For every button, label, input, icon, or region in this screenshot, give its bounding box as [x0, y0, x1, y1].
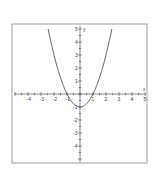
graph: -4-3-2-11234554321-1-2-3-4 x y [0, 0, 160, 172]
y-tick-label: 4 [75, 39, 78, 45]
y-tick-label: -1 [73, 104, 78, 110]
y-tick-label: 1 [75, 78, 78, 84]
x-tick-label: -2 [53, 96, 58, 102]
y-tick-label: 2 [75, 65, 78, 71]
x-tick-label: -4 [27, 96, 32, 102]
plot-frame [12, 24, 147, 163]
y-tick-label: 3 [75, 52, 78, 58]
x-tick-label: 2 [105, 96, 108, 102]
x-tick-label: 4 [131, 96, 134, 102]
y-tick-label: -2 [73, 117, 78, 123]
x-tick-label: 3 [118, 96, 121, 102]
x-tick-label: -3 [40, 96, 45, 102]
y-tick-label: -4 [73, 143, 78, 149]
y-tick-label: -3 [73, 130, 78, 136]
x-tick-label: 5 [144, 96, 147, 102]
y-tick-label: 5 [75, 26, 78, 32]
